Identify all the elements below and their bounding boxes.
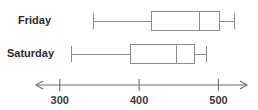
- axis-tick-label-400: 400: [130, 94, 148, 106]
- box-plot-chart: Friday Saturday 300 400 500: [0, 0, 258, 110]
- friday-upper-whisker-line: [220, 21, 234, 22]
- axis-tick-label-500: 500: [209, 94, 227, 106]
- saturday-box: [130, 44, 195, 64]
- saturday-upper-whisker-line: [195, 54, 206, 55]
- axis-arrow-right: [240, 81, 247, 89]
- friday-max-whisker-cap: [234, 13, 235, 29]
- axis-tick-label-300: 300: [51, 94, 69, 106]
- saturday-max-whisker-cap: [206, 46, 207, 62]
- category-label-saturday: Saturday: [7, 47, 54, 59]
- friday-box: [151, 11, 220, 31]
- saturday-lower-whisker-line: [71, 54, 130, 55]
- saturday-median-line: [176, 44, 177, 64]
- axis-arrow-left: [36, 81, 43, 89]
- friday-lower-whisker-line: [93, 21, 151, 22]
- category-label-friday: Friday: [18, 14, 51, 26]
- friday-median-line: [199, 11, 200, 31]
